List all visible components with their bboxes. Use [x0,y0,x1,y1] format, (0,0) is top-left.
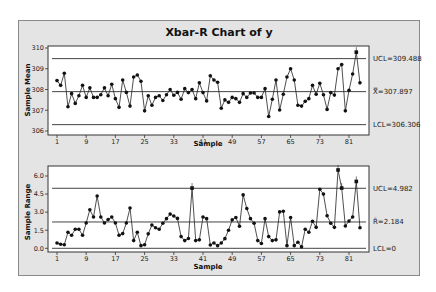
range-data-point [296,240,300,244]
range-data-point [143,243,147,247]
xbar-x-tick-label: 65 [286,138,294,146]
range-data-point [121,232,125,236]
range-data-point [285,244,289,248]
xbar-data-point [95,96,99,100]
xbar-x-tick-label: 41 [199,138,207,146]
range-data-point [84,221,88,225]
range-data-point [128,206,132,210]
range-data-point [194,239,198,243]
range-data-point [165,217,169,221]
range-data-point [95,194,99,198]
range-data-point [344,224,348,228]
range-y-tick-label: 3.0 [34,208,44,216]
chart-title: Xbar-R Chart of y [165,26,272,39]
xbar-y-tick-label: 306 [32,127,44,135]
xbar-data-point [125,91,129,95]
xbar-data-point [194,97,198,101]
range-x-tick-label: 33 [170,255,178,263]
range-data-point [303,227,307,231]
range-data-point [292,244,296,248]
xbar-x-tick-label: 33 [170,138,178,146]
range-data-point [223,237,227,241]
xbar-data-point [292,78,296,82]
range-data-point [234,216,238,220]
range-data-point [358,226,362,230]
range-data-point [230,218,234,222]
range-data-point [73,227,77,231]
range-data-point [103,221,107,225]
xbar-data-point [63,72,67,76]
xbar-data-point [311,84,315,88]
xbar-data-point [121,78,125,82]
range-ucl-label: UCL=4.982 [373,185,413,193]
xbar-data-point [263,87,267,91]
range-data-point [154,226,158,230]
xbar-data-point [154,96,158,100]
xbar-data-point [241,92,245,96]
xbar-data-point [230,96,234,100]
range-x-tick-label: 49 [228,255,236,263]
range-x-axis-label: Sample [193,263,222,271]
xbar-data-point [114,97,118,101]
xbar-data-point [128,104,132,108]
xbar-y-tick-label: 310 [32,44,44,52]
xbar-data-point [77,94,81,98]
xbar-data-point [300,104,304,108]
xbar-data-point [358,81,362,85]
range-data-point [336,168,340,172]
xbar-data-point [55,79,59,83]
xbar-data-point [282,92,286,96]
xbar-data-point [187,91,191,95]
range-data-point [66,230,70,234]
xbar-data-point [70,92,74,96]
range-data-point [176,217,180,221]
xbar-data-point [92,96,96,100]
range-data-point [99,215,103,219]
xbar-lcl-label: LCL=306.306 [373,121,421,129]
range-data-point [55,241,59,245]
range-data-point [190,186,194,190]
xbar-data-point [201,91,205,95]
xbar-data-point [285,75,289,79]
xbar-data-point [106,94,110,98]
xbar-x-tick-label: 81 [345,138,353,146]
range-x-tick-label: 25 [140,255,148,263]
xbar-data-point [351,72,355,76]
xbar-data-point [157,94,161,98]
range-data-point [161,221,165,225]
xbar-x-tick-label: 49 [228,138,236,146]
range-data-point [300,245,304,249]
xbar-y-tick-label: 307 [32,107,44,115]
range-data-point [325,214,329,218]
range-data-point [278,210,282,214]
range-data-point [201,215,205,219]
xbar-data-point [333,93,337,97]
xbar-data-point [132,75,136,79]
range-data-point [318,187,322,191]
xbar-data-point [117,106,121,110]
xbar-data-point [209,74,213,78]
xbar-data-point [219,106,223,110]
xbar-data-point [260,96,264,100]
xbar-data-point [110,83,114,87]
range-center-label: R̄=2.184 [373,217,404,226]
range-x-tick-label: 1 [55,255,59,263]
range-data-point [238,224,242,228]
range-data-point [245,207,249,211]
xbar-subplot: Sample Mean Sample 306307308309310 19172… [24,44,422,148]
range-data-point [271,239,275,243]
xbar-data-point [183,87,187,91]
xbar-data-point [150,103,154,107]
range-y-tick-label: 1.5 [34,227,44,235]
range-data-point [212,241,216,245]
range-data-point [267,235,271,239]
xbar-data-point [278,108,282,112]
xbar-data-point [84,96,88,100]
range-data-point [347,219,351,223]
xbar-data-point [355,50,359,54]
range-data-point [219,241,223,245]
xbar-data-point [161,99,165,103]
xbar-data-point [307,97,311,101]
xbar-data-point [238,101,242,105]
xbar-data-point [245,96,249,100]
